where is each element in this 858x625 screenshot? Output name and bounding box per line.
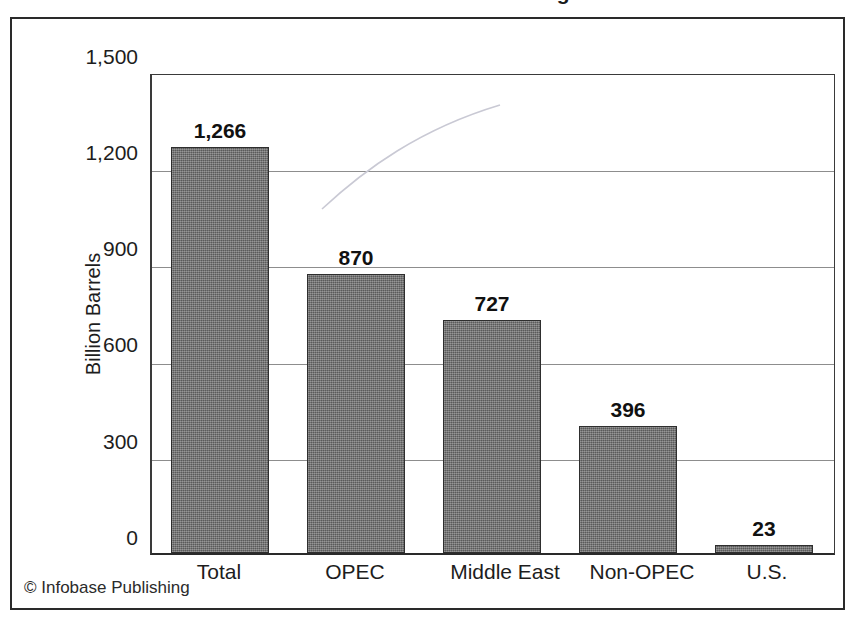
bar-value-non-opec: 396 [579,398,677,422]
y-tick-label: 1,200 [48,141,138,165]
plot-area: 1,266 870 727 396 23 [150,74,835,555]
x-tick-label-non-opec: Non-OPEC [560,560,724,584]
bar-non-opec [579,426,677,553]
chart-title: World Proven Oil Reserves through 2025 [0,0,858,5]
bar-us [715,545,813,553]
x-tick-label-us: U.S. [712,560,822,584]
bar-value-opec: 870 [307,246,405,270]
bar-value-total: 1,266 [171,119,269,143]
copyright-credit: © Infobase Publishing [24,578,190,598]
bar-value-middle-east: 727 [443,292,541,316]
chart-frame: Billion Barrels 1,500 1,200 900 600 300 … [10,17,845,610]
bar-total [171,147,269,553]
bar-value-us: 23 [715,517,813,541]
y-tick-label: 900 [48,237,138,261]
y-tick-label: 0 [48,526,138,550]
y-tick-label: 1,500 [48,45,138,69]
bar-middle-east [443,320,541,553]
y-tick-label: 300 [48,430,138,454]
y-tick-label: 600 [48,333,138,357]
chart-title-clip: World Proven Oil Reserves through 2025 [0,0,858,14]
x-tick-label-opec: OPEC [300,560,410,584]
bar-opec [307,274,405,553]
